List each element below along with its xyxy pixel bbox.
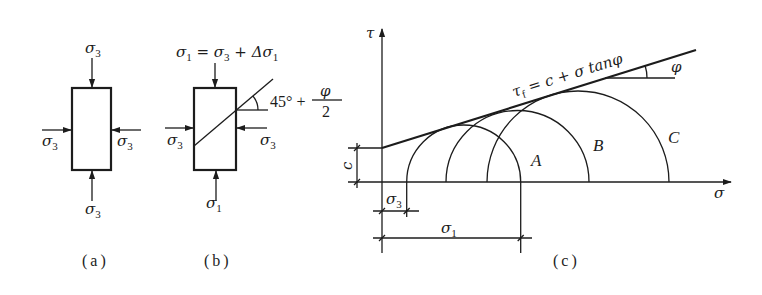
cohesion-label: c xyxy=(338,161,356,170)
failure-angle-label: 45° + φ 2 xyxy=(270,82,342,120)
sigma-axis-label: σ xyxy=(714,184,725,202)
failure-angle-prefix: 45° + xyxy=(270,93,305,110)
failure-envelope-line xyxy=(382,50,696,148)
right-load-label: σ3 xyxy=(117,132,133,152)
cohesion-dimension: c xyxy=(338,143,382,188)
panel-b: σ1 = σ3 + Δσ1 45° + φ 2 σ3 σ3 σ1 (b) xyxy=(165,43,342,270)
failure-angle-denominator: 2 xyxy=(322,103,330,120)
bottom-load-label: σ1 xyxy=(206,194,222,214)
left-load-label: σ3 xyxy=(42,132,58,152)
mohr-circle-a xyxy=(407,125,521,182)
failure-angle-numerator: φ xyxy=(320,82,331,100)
panel-a-caption: (a) xyxy=(82,252,109,270)
right-load-label: σ3 xyxy=(260,131,276,151)
circle-b-label: B xyxy=(593,136,604,155)
sigma1-dimension-label: σ1 xyxy=(441,219,457,239)
bottom-load-label: σ3 xyxy=(85,200,101,220)
panel-c-caption: (c) xyxy=(553,252,580,270)
sigma1-dimension: σ1 xyxy=(373,182,532,253)
mohr-circle-c xyxy=(487,91,669,182)
friction-angle-label: φ xyxy=(671,58,682,76)
major-principal-stress-equation: σ1 = σ3 + Δσ1 xyxy=(176,43,278,63)
panel-c: τ σ c A B C φ τf = c + σ tanφ σ3 xyxy=(338,24,731,270)
envelope-equation: τf = c + σ tanφ xyxy=(510,49,626,102)
circle-a-label: A xyxy=(530,151,542,170)
top-load-label: σ3 xyxy=(85,39,101,59)
sigma3-dimension-label: σ3 xyxy=(386,190,402,210)
circle-c-label: C xyxy=(668,128,680,147)
panel-b-caption: (b) xyxy=(204,252,232,270)
failure-angle-arc xyxy=(253,96,258,110)
tau-axis-label: τ xyxy=(366,24,375,42)
sigma3-dimension: σ3 xyxy=(373,182,419,217)
left-load-label: σ3 xyxy=(167,131,183,151)
friction-angle-arc xyxy=(645,66,647,79)
mohr-coulomb-figure: σ3 σ3 σ3 σ3 (a) σ1 = σ3 + Δσ1 45° + φ 2 … xyxy=(0,0,762,295)
soil-specimen xyxy=(72,88,111,170)
panel-a: σ3 σ3 σ3 σ3 (a) xyxy=(42,39,141,270)
